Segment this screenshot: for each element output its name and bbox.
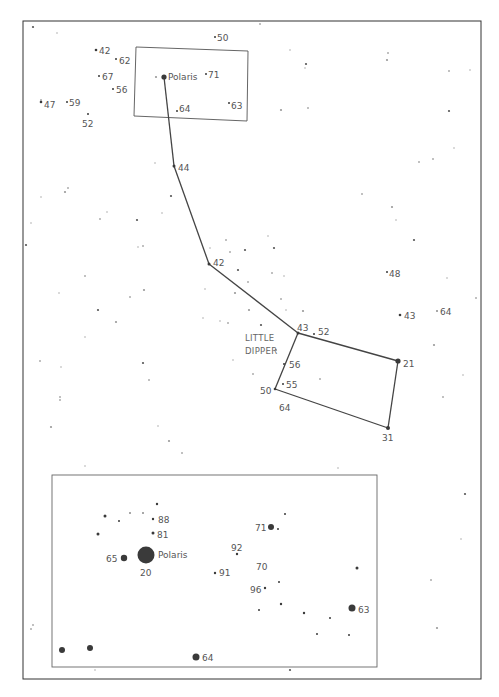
star-label: 71	[255, 523, 266, 533]
star-icon	[148, 379, 149, 380]
constellation-title-line2: DIPPER	[245, 346, 277, 356]
star-icon	[129, 296, 130, 297]
star-icon	[104, 515, 107, 518]
star-icon	[283, 275, 284, 276]
star-icon	[214, 36, 216, 38]
star-icon	[58, 292, 59, 293]
star-icon	[237, 269, 239, 271]
star-icon	[282, 383, 284, 385]
star-label: Polaris	[158, 550, 188, 560]
star-icon	[50, 426, 52, 428]
star-icon	[40, 101, 43, 104]
star-label: 52	[318, 327, 329, 337]
star-icon	[59, 399, 60, 400]
star-icon	[170, 195, 172, 197]
star-icon	[442, 396, 443, 397]
star-icon	[118, 520, 120, 522]
star-icon	[273, 247, 275, 249]
star-icon	[156, 503, 158, 505]
star-label: 65	[106, 554, 117, 564]
star-icon	[446, 277, 447, 278]
star-label: 31	[382, 433, 393, 443]
star-icon	[280, 109, 282, 111]
star-label: 92	[231, 543, 242, 553]
star-icon	[204, 288, 205, 289]
star-icon	[202, 317, 203, 318]
star-icon	[448, 110, 450, 112]
star-label: 63	[358, 605, 369, 615]
star-icon	[98, 75, 100, 77]
star-icon	[418, 161, 419, 162]
star-icon	[285, 309, 286, 310]
star-icon	[136, 219, 138, 221]
star-icon	[395, 219, 396, 220]
star-icon	[469, 69, 470, 70]
star-icon	[395, 358, 400, 363]
star-icon	[115, 58, 117, 60]
star-icon	[84, 275, 85, 276]
star-label: 67	[102, 72, 113, 82]
star-icon	[436, 627, 438, 629]
star-icon	[143, 289, 145, 291]
star-icon	[214, 572, 216, 574]
star-icon	[386, 271, 388, 273]
star-label: 63	[231, 101, 242, 111]
star-label: 48	[389, 269, 401, 279]
star-icon	[278, 581, 280, 583]
star-icon	[84, 465, 85, 466]
star-icon	[386, 426, 390, 430]
star-icon	[284, 513, 286, 515]
star-icon	[152, 518, 154, 520]
star-icon	[25, 244, 27, 246]
star-icon	[475, 297, 476, 298]
star-icon	[244, 249, 246, 251]
star-icon	[173, 165, 176, 168]
star-icon	[307, 107, 308, 108]
star-label: 44	[178, 163, 190, 173]
star-icon	[138, 547, 155, 564]
star-icon	[219, 320, 220, 321]
star-icon	[464, 493, 466, 495]
star-icon	[319, 378, 320, 379]
star-icon	[142, 362, 144, 364]
star-label: 56	[116, 85, 128, 95]
star-icon	[87, 645, 93, 651]
star-icon	[227, 322, 228, 323]
star-icon	[157, 425, 158, 426]
star-icon	[274, 388, 277, 391]
star-icon	[289, 669, 291, 671]
star-icon	[280, 298, 281, 299]
star-icon	[56, 32, 57, 33]
star-icon	[413, 239, 415, 241]
star-icon	[161, 212, 162, 213]
star-icon	[305, 63, 307, 65]
star-icon	[268, 524, 274, 530]
star-icon	[361, 193, 362, 194]
star-icon	[430, 579, 431, 580]
star-label: 91	[219, 568, 230, 578]
star-icon	[349, 605, 356, 612]
star-label: 96	[250, 585, 262, 595]
star-label: 88	[158, 515, 170, 525]
star-label: 42	[213, 258, 224, 268]
star-label: 56	[289, 360, 301, 370]
star-icon	[259, 23, 260, 24]
star-icon	[30, 628, 31, 629]
constellation-title-line1: LITTLE	[245, 333, 274, 343]
star-icon	[236, 553, 238, 555]
star-label: 70	[256, 562, 268, 572]
star-label: 81	[157, 530, 168, 540]
star-icon	[316, 633, 318, 635]
star-icon	[252, 373, 253, 374]
star-icon	[168, 440, 170, 442]
star-icon	[39, 360, 40, 361]
star-icon	[142, 512, 144, 514]
star-icon	[387, 52, 388, 53]
star-icon	[205, 73, 207, 75]
star-icon	[302, 310, 304, 312]
star-label: 62	[119, 56, 130, 66]
star-icon	[247, 281, 248, 282]
star-icon	[154, 162, 155, 163]
star-icon	[232, 359, 233, 360]
star-icon	[32, 26, 34, 28]
